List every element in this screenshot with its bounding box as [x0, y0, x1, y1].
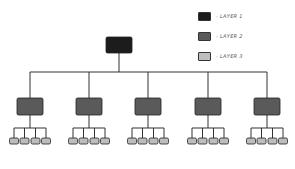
layer-2-node [17, 98, 43, 115]
legend-label: - LAYER 2 [216, 33, 243, 39]
layer-3-node [79, 138, 88, 144]
layer-3-node [42, 138, 51, 144]
layer-3-node [101, 138, 110, 144]
layer-3-node [209, 138, 218, 144]
layer-3-node [31, 138, 40, 144]
layer-1-root-node [106, 37, 132, 53]
layer-3-node [188, 138, 197, 144]
layer-3-node [220, 138, 229, 144]
legend: - LAYER 1 - LAYER 2 - LAYER 3 [198, 10, 288, 70]
layer-2-node [76, 98, 102, 115]
legend-item-layer-2: - LAYER 2 [198, 30, 288, 42]
layer-3-node [128, 138, 137, 144]
layer-2-node [254, 98, 280, 115]
layer-3-node [268, 138, 277, 144]
layer-3-node [279, 138, 288, 144]
legend-swatch-layer-3 [198, 52, 211, 61]
legend-swatch-layer-2 [198, 32, 211, 41]
layer-2-node [195, 98, 221, 115]
layer-2-node [135, 98, 161, 115]
layer-3-node [90, 138, 99, 144]
legend-swatch-layer-1 [198, 12, 211, 21]
layer-3-node [257, 138, 266, 144]
layer-3-node [247, 138, 256, 144]
layer-3-node [198, 138, 207, 144]
legend-label: - LAYER 1 [216, 13, 243, 19]
legend-item-layer-1: - LAYER 1 [198, 10, 288, 22]
layer-3-node [138, 138, 147, 144]
layer-3-node [69, 138, 78, 144]
layer-3-node [10, 138, 19, 144]
layer-3-node [160, 138, 169, 144]
legend-item-layer-3: - LAYER 3 [198, 50, 288, 62]
layer-3-node [20, 138, 29, 144]
legend-label: - LAYER 3 [216, 53, 243, 59]
layer-3-node [149, 138, 158, 144]
